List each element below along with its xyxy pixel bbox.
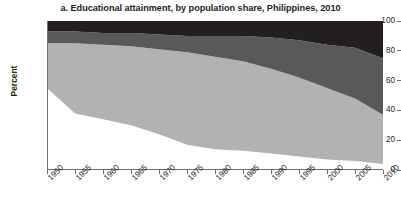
y-tick-label: 20 [386, 135, 395, 145]
chart-title: a. Educational attainment, by population… [0, 3, 401, 13]
y-tick-label: 100 [381, 16, 395, 26]
y-tick-label: 80 [386, 46, 395, 56]
y-tick-label: 60 [386, 76, 395, 86]
y-tick-mark [397, 50, 401, 51]
chart-figure: a. Educational attainment, by population… [0, 0, 401, 210]
area-series-group [47, 21, 383, 170]
y-tick-mark [397, 110, 401, 111]
y-tick-mark [397, 140, 401, 141]
y-tick-mark [397, 80, 401, 81]
y-axis-label: Percent [9, 46, 19, 116]
y-tick-mark [397, 21, 401, 22]
stacked-area-plot [47, 21, 383, 170]
y-tick-label: 40 [386, 105, 395, 115]
